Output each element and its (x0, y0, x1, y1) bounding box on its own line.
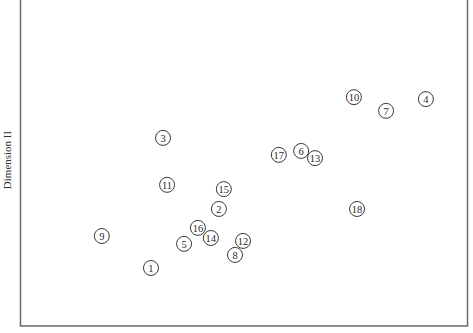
data-point-12: 12 (236, 233, 251, 248)
point-label: 12 (238, 236, 249, 247)
point-label: 3 (160, 133, 165, 144)
point-label: 6 (299, 146, 304, 157)
y-axis-label: Dimension II (1, 130, 13, 189)
plot-frame (21, 0, 468, 326)
data-point-9: 9 (94, 229, 109, 244)
point-label: 4 (423, 94, 429, 105)
point-label: 15 (219, 184, 230, 195)
scatter-chart: Dimension II 123456789101112131415161718 (0, 0, 473, 333)
data-point-7: 7 (379, 103, 394, 118)
data-point-5: 5 (177, 236, 192, 251)
data-point-13: 13 (308, 151, 323, 166)
data-points: 123456789101112131415161718 (94, 90, 433, 276)
point-label: 14 (206, 233, 217, 244)
point-label: 8 (232, 250, 237, 261)
data-point-15: 15 (216, 182, 231, 197)
data-point-4: 4 (418, 92, 433, 107)
data-point-2: 2 (211, 201, 226, 216)
point-label: 7 (383, 106, 388, 117)
data-point-17: 17 (271, 147, 286, 162)
point-label: 17 (274, 150, 285, 161)
data-point-14: 14 (203, 230, 218, 245)
point-label: 10 (349, 92, 360, 103)
data-point-6: 6 (294, 143, 309, 158)
point-label: 11 (162, 180, 172, 191)
data-point-11: 11 (160, 177, 175, 192)
data-point-18: 18 (350, 201, 365, 216)
point-label: 2 (216, 204, 221, 215)
point-label: 1 (148, 263, 153, 274)
data-point-3: 3 (156, 130, 171, 145)
point-label: 5 (181, 239, 186, 250)
point-label: 18 (352, 204, 363, 215)
point-label: 13 (310, 153, 321, 164)
point-label: 9 (99, 231, 104, 242)
data-point-10: 10 (346, 90, 361, 105)
point-label: 16 (193, 223, 204, 234)
data-point-16: 16 (190, 220, 205, 235)
data-point-8: 8 (228, 247, 243, 262)
data-point-1: 1 (143, 260, 158, 275)
